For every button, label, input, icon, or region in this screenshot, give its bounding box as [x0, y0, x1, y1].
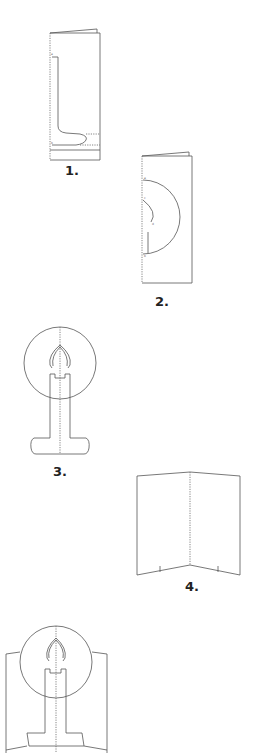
svg-text:a: a [51, 52, 53, 56]
instruction-diagram: a b a c d b [0, 0, 255, 753]
svg-text:a: a [144, 176, 146, 180]
svg-text:b: b [51, 141, 53, 145]
step-4-label: 4. [185, 579, 199, 594]
step-1-figure: a b [50, 29, 100, 160]
step-3-label: 3. [53, 464, 67, 479]
step-2-figure: a c d b [142, 152, 192, 283]
step-1-label: 1. [65, 163, 79, 178]
step-3-figure [24, 327, 96, 454]
step-5-figure [6, 626, 107, 753]
step-4-figure [137, 472, 240, 575]
svg-text:d: d [152, 222, 154, 226]
step-2-label: 2. [155, 294, 169, 309]
svg-text:c: c [144, 196, 146, 200]
svg-text:b: b [144, 254, 146, 258]
